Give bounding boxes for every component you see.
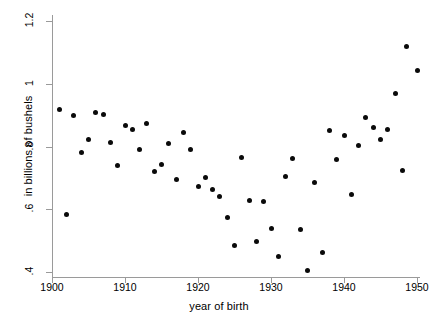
data-point: [290, 156, 295, 161]
data-point: [93, 110, 98, 115]
data-point: [261, 199, 266, 204]
y-tick-mark: [46, 147, 52, 148]
y-axis-line: [52, 15, 53, 277]
data-point: [174, 177, 179, 182]
x-axis-title: year of birth: [0, 300, 438, 312]
data-point: [137, 147, 142, 152]
data-point: [79, 150, 84, 155]
data-point: [320, 250, 325, 255]
data-point: [254, 239, 259, 244]
y-tick-mark: [46, 84, 52, 85]
x-tick-label: 1940: [324, 281, 364, 293]
data-point: [283, 174, 288, 179]
y-axis-title: in billions of bushels: [22, 51, 34, 241]
data-point: [232, 243, 237, 248]
data-point: [115, 163, 120, 168]
x-axis-line: [52, 277, 420, 278]
x-tick-label: 1930: [251, 281, 291, 293]
data-point: [152, 169, 157, 174]
data-point: [400, 168, 405, 173]
data-point: [64, 212, 69, 217]
x-tick-label: 1910: [105, 281, 145, 293]
data-point: [305, 268, 310, 273]
y-tick-label: 1.2: [23, 5, 35, 35]
data-point: [415, 68, 420, 73]
data-point: [101, 112, 106, 117]
x-tick-label: 1920: [178, 281, 218, 293]
data-point: [130, 127, 135, 132]
x-tick-label: 1900: [32, 281, 72, 293]
data-point: [327, 128, 332, 133]
data-point: [298, 227, 303, 232]
data-point: [181, 130, 186, 135]
data-point: [196, 184, 201, 189]
y-tick-mark: [46, 21, 52, 22]
data-point: [239, 155, 244, 160]
data-point: [203, 175, 208, 180]
data-point: [363, 115, 368, 120]
data-point: [269, 226, 274, 231]
data-point: [276, 254, 281, 259]
data-point: [210, 187, 215, 192]
data-point: [385, 127, 390, 132]
data-point: [159, 162, 164, 167]
data-point: [404, 44, 409, 49]
data-point: [144, 121, 149, 126]
data-point: [123, 123, 128, 128]
data-point: [349, 192, 354, 197]
scatter-chart: .4.6.811.2 190019101920193019401950 year…: [0, 0, 438, 322]
data-point: [71, 113, 76, 118]
data-point: [166, 141, 171, 146]
data-point: [356, 143, 361, 148]
data-point: [393, 91, 398, 96]
x-tick-label: 1950: [397, 281, 437, 293]
data-point: [312, 180, 317, 185]
data-point: [334, 157, 339, 162]
data-point: [378, 137, 383, 142]
plot-area: [0, 0, 438, 322]
data-point: [108, 140, 113, 145]
data-point: [225, 215, 230, 220]
data-point: [188, 147, 193, 152]
data-point: [217, 194, 222, 199]
data-point: [371, 125, 376, 130]
data-point: [86, 137, 91, 142]
y-tick-mark: [46, 209, 52, 210]
data-point: [57, 107, 62, 112]
y-tick-mark: [46, 272, 52, 273]
data-point: [342, 133, 347, 138]
data-point: [247, 198, 252, 203]
